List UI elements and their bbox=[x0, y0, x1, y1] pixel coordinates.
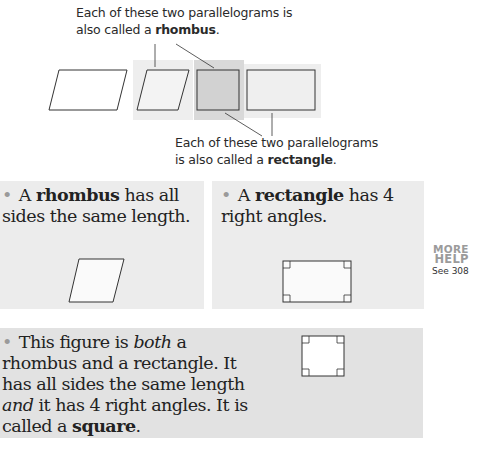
caption-line: Each of these two parallelograms is bbox=[76, 4, 292, 21]
rhombus-description: •A rhombus has all sides the same length… bbox=[2, 185, 198, 227]
rectangle-caption: Each of these two parallelograms is also… bbox=[175, 134, 378, 168]
caption-line: is also called a rectangle. bbox=[175, 151, 378, 168]
rectangle-description: •A rectangle has 4 right angles. bbox=[221, 185, 421, 227]
box-text: A bbox=[238, 185, 255, 205]
square-description: •This figure is both a rhombus and a rec… bbox=[2, 332, 252, 437]
box-text: This figure is bbox=[19, 332, 134, 352]
square-shape bbox=[197, 70, 239, 110]
rectangle-shape bbox=[247, 70, 315, 110]
rectangle-info-box: •A rectangle has 4 right angles. bbox=[212, 181, 424, 309]
parallelogram-shape bbox=[49, 70, 127, 110]
caption-line: Each of these two parallelograms bbox=[175, 134, 378, 151]
bullet-icon: • bbox=[221, 185, 231, 205]
bullet-icon: • bbox=[2, 185, 12, 205]
square-diagram bbox=[301, 335, 347, 379]
more-help-page-ref: See 308 bbox=[432, 265, 469, 277]
rectangle-diagram bbox=[282, 260, 356, 306]
caption-term: rhombus bbox=[155, 22, 216, 37]
box-emphasis: both bbox=[133, 332, 171, 352]
box-term: rhombus bbox=[36, 185, 119, 205]
box-term: rectangle bbox=[255, 185, 344, 205]
box-emphasis: and bbox=[2, 395, 33, 415]
caption-text: . bbox=[216, 22, 220, 37]
bullet-icon: • bbox=[2, 332, 12, 352]
box-text: . bbox=[136, 416, 141, 436]
more-help-link[interactable]: MORE HELP See 308 bbox=[432, 244, 469, 277]
caption-text: is also called a bbox=[175, 152, 268, 167]
caption-text: . bbox=[333, 152, 337, 167]
square-info-box: •This figure is both a rhombus and a rec… bbox=[0, 328, 423, 438]
caption-term: rectangle bbox=[268, 152, 333, 167]
rhombus-caption: Each of these two parallelograms is also… bbox=[76, 4, 292, 38]
rhombus-info-box: •A rhombus has all sides the same length… bbox=[0, 181, 204, 309]
rhombus-diagram bbox=[68, 256, 128, 306]
caption-text: also called a bbox=[76, 22, 155, 37]
more-help-label: HELP bbox=[432, 254, 469, 265]
box-term: square bbox=[72, 416, 136, 436]
box-text: A bbox=[19, 185, 36, 205]
caption-line: also called a rhombus. bbox=[76, 21, 292, 38]
